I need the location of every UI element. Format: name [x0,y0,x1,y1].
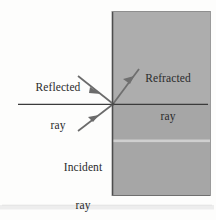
reflected-ray-label-line2: ray [22,119,94,132]
optics-refraction-figure: Reflected ray Refracted ray Incident ray [0,0,216,220]
refracted-ray-label-line2: ray [133,110,203,123]
refracted-ray-label-line1: Refracted [133,72,203,85]
refracted-ray-label: Refracted ray [133,47,203,147]
incident-ray-label-line1: Incident [48,161,118,174]
incident-ray-label: Incident ray [48,136,118,220]
incidence-point [112,103,115,106]
incident-ray-label-line2: ray [48,199,118,212]
reflected-ray-label-line1: Reflected [22,81,94,94]
